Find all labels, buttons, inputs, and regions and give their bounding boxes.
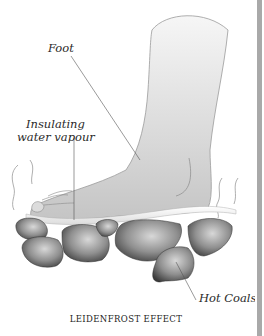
label-hot-coals: Hot Coals [199, 292, 256, 305]
label-insulating-2: water vapour [17, 131, 95, 144]
right-border-bar [257, 0, 262, 336]
leidenfrost-illustration [0, 0, 264, 336]
hot-coals [16, 218, 232, 282]
label-foot: Foot [48, 42, 74, 55]
diagram-caption: LEIDENFROST EFFECT [0, 314, 252, 324]
foot-leader [71, 56, 140, 160]
diagram-canvas: Foot Insulating water vapour Hot Coals L… [0, 0, 264, 336]
heat-wisps-left [12, 160, 33, 210]
